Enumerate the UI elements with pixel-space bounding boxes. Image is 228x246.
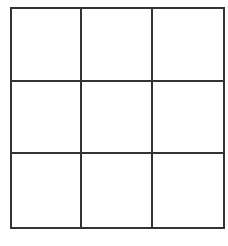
cell-r3-c3[interactable] bbox=[153, 154, 223, 227]
game-board bbox=[10, 7, 225, 229]
cell-r2-c2[interactable] bbox=[82, 82, 152, 155]
cell-r2-c1[interactable] bbox=[12, 82, 82, 155]
cell-r2-c3[interactable] bbox=[153, 82, 223, 155]
cell-r3-c2[interactable] bbox=[82, 154, 152, 227]
cell-r3-c1[interactable] bbox=[12, 154, 82, 227]
cell-r1-c1[interactable] bbox=[12, 9, 82, 82]
cell-r1-c2[interactable] bbox=[82, 9, 152, 82]
cell-r1-c3[interactable] bbox=[153, 9, 223, 82]
